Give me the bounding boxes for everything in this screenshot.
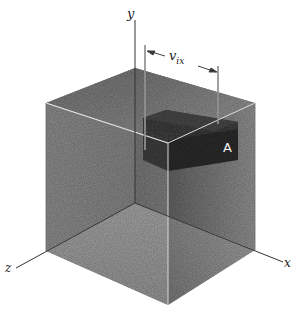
arrow-left-icon xyxy=(147,51,155,55)
y-axis-label: y xyxy=(127,6,134,21)
x-axis-label: x xyxy=(284,256,291,270)
velocity-label: vix xyxy=(167,48,186,66)
z-axis-label: z xyxy=(5,261,11,275)
block-label: A xyxy=(223,140,232,155)
box-diagram xyxy=(0,0,302,319)
arrow-right-icon xyxy=(209,68,217,72)
velocity-subscript: ix xyxy=(176,56,184,66)
